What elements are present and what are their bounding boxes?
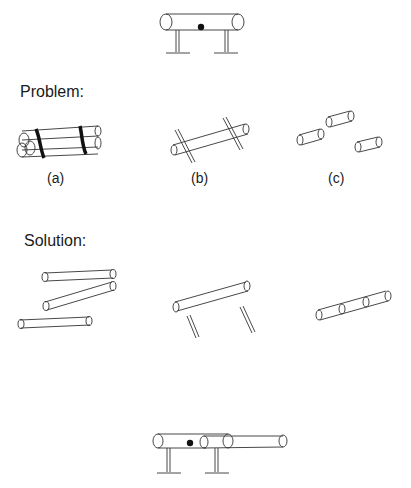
problem-a-label: (a) bbox=[47, 170, 64, 186]
solution-left-rods bbox=[18, 270, 116, 329]
bottom-pipe-figure bbox=[153, 434, 287, 473]
problem-heading: Problem: bbox=[20, 83, 84, 101]
dot-marker bbox=[198, 24, 204, 30]
top-pipe-figure bbox=[160, 14, 244, 53]
problem-a-bundle bbox=[17, 126, 101, 158]
solution-right-segmented bbox=[316, 291, 391, 320]
dot-marker bbox=[187, 440, 193, 446]
problem-c-label: (c) bbox=[328, 170, 344, 186]
solution-middle-rod bbox=[173, 281, 255, 338]
problem-b-label: (b) bbox=[191, 170, 208, 186]
problem-b-crossed bbox=[171, 117, 249, 163]
solution-heading: Solution: bbox=[24, 232, 86, 250]
problem-c-short-cylinders bbox=[297, 111, 382, 152]
